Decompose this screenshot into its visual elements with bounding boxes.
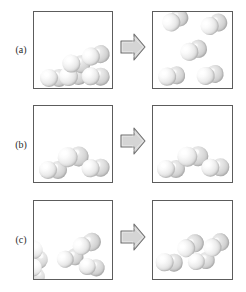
right-block-arrow-icon [119, 32, 147, 62]
atom-sphere [155, 253, 173, 271]
figure-row-a: (a) [0, 6, 246, 94]
right-block-arrow-icon [119, 126, 147, 156]
states-of-matter-figure: (a)(b)(c) [0, 0, 246, 292]
box-a-after [152, 11, 233, 89]
right-block-arrow-icon [119, 222, 147, 252]
atom-sphere [40, 69, 58, 87]
figure-row-c: (c) [0, 195, 246, 287]
box-b-after [152, 105, 233, 183]
box-c-after [152, 200, 233, 280]
right-block-arrow-icon [119, 222, 147, 252]
row-label-a: (a) [8, 44, 34, 55]
box-a-before [33, 11, 113, 89]
right-block-arrow-icon [119, 126, 147, 156]
row-label-b: (b) [8, 139, 34, 150]
right-block-arrow-icon [119, 32, 147, 62]
box-c-before [33, 200, 113, 280]
box-b-before [33, 105, 113, 183]
atom-sphere [157, 160, 175, 178]
atom-sphere [39, 161, 57, 179]
row-label-c: (c) [8, 234, 34, 245]
figure-row-b: (b) [0, 100, 246, 188]
